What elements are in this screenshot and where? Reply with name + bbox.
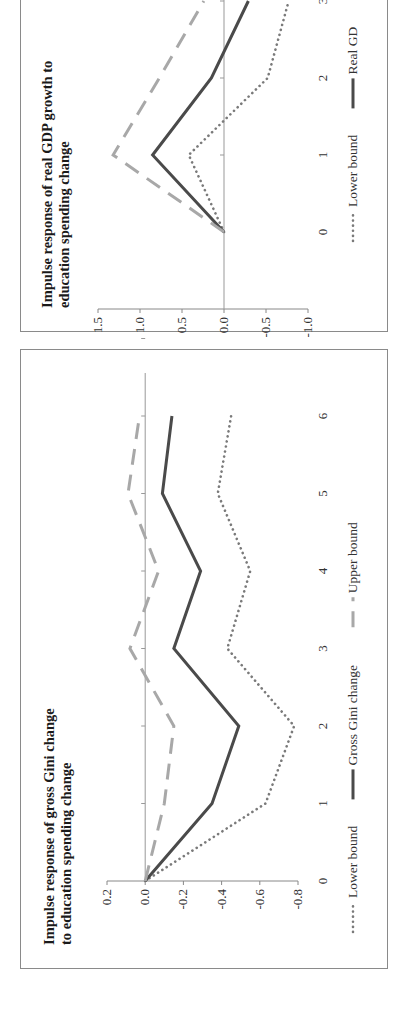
gini-x-tick-label: 4 (315, 567, 330, 574)
gini-y-tick-label: -0.6 (252, 889, 267, 910)
gdp-y-tick-label: -1.0 (300, 317, 315, 338)
gini-x-tick-label: 3 (315, 645, 330, 652)
gini-x-tick-label: 6 (315, 412, 330, 419)
gini-y-tick-label: 0.0 (137, 889, 152, 905)
gini-x-tick-label: 0 (315, 878, 330, 885)
gdp-line-chart: 1.51.00.50.0-0.5-1.00123Lower boundReal … (21, 0, 389, 331)
gdp-x-tick-label: 1 (315, 152, 330, 159)
gdp-chart-panel: Impulse response of real GDP growth to e… (20, 0, 388, 332)
gini-series-upper-bound (128, 416, 174, 881)
gini-series-gross-gini-change (145, 416, 239, 881)
gdp-series-upper-bound (113, 1, 224, 232)
figure-stage: Impulse response of gross Gini change to… (0, 0, 403, 1015)
gini-x-tick-label: 1 (315, 800, 330, 807)
gdp-x-tick-label: 2 (315, 75, 330, 82)
gdp-y-tick-label: -0.5 (258, 317, 273, 338)
gini-legend-label: Gross Gini change (345, 665, 360, 765)
gini-legend-label: Lower bound (345, 825, 360, 898)
gdp-y-tick-label: 1.0 (132, 317, 147, 333)
gini-y-tick-label: 0.2 (99, 889, 114, 905)
gini-legend-label: Upper bound (345, 522, 360, 593)
gdp-x-tick-label: 0 (315, 229, 330, 236)
gdp-y-tick-label: 0.0 (216, 317, 231, 333)
gdp-y-tick-label: 1.5 (90, 317, 105, 333)
gdp-series-lower-bound (189, 1, 289, 232)
gini-line-chart: 0.20.0-0.2-0.4-0.6-0.80123456Lower bound… (21, 348, 389, 968)
gini-y-tick-label: -0.4 (214, 889, 229, 910)
gini-x-tick-label: 5 (315, 490, 330, 497)
gdp-legend-label: Lower bound (345, 134, 360, 207)
gini-x-tick-label: 2 (315, 723, 330, 730)
gini-y-tick-label: -0.2 (175, 889, 190, 910)
gdp-x-tick-label: 3 (315, 0, 330, 4)
gdp-series-real-gdp (153, 1, 249, 232)
gini-series-lower-bound (145, 416, 294, 881)
gdp-y-tick-label: 0.5 (174, 317, 189, 333)
gini-chart-panel: Impulse response of gross Gini change to… (20, 349, 388, 969)
gini-y-tick-label: -0.8 (290, 889, 305, 910)
gdp-legend-label: Real GD (345, 27, 360, 75)
